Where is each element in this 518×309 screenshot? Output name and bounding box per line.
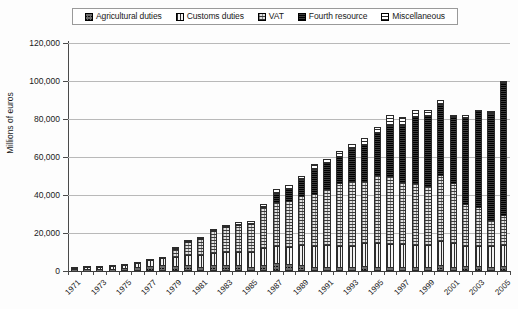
- bar-1994[interactable]: [361, 138, 368, 271]
- bar-1988[interactable]: [285, 185, 292, 271]
- bar-1990[interactable]: [311, 164, 318, 271]
- segment-fourth-resource: [387, 126, 392, 177]
- bar-1999[interactable]: [424, 110, 431, 272]
- bar-2002[interactable]: [462, 115, 469, 271]
- segment-agricultural-duties: [223, 266, 228, 270]
- segment-agricultural-duties: [135, 268, 140, 270]
- x-axis-tick: [396, 271, 397, 275]
- segment-customs-duties: [223, 253, 228, 266]
- swatch-vat-icon: [258, 13, 266, 21]
- legend-item-fourth-resource[interactable]: Fourth resource: [298, 12, 368, 21]
- x-axis-tick: [182, 271, 183, 275]
- swatch-agricultural-duties-icon: [85, 13, 93, 21]
- segment-fourth-resource: [451, 118, 456, 183]
- segment-fourth-resource: [312, 170, 317, 195]
- legend-item-agricultural-duties[interactable]: Agricultural duties: [85, 12, 162, 21]
- bar-1995[interactable]: [374, 127, 381, 271]
- segment-customs-duties: [362, 244, 367, 266]
- x-axis-tick: [485, 271, 486, 275]
- segment-vat: [387, 177, 392, 245]
- segment-fourth-resource: [476, 112, 481, 207]
- segment-fourth-resource: [286, 190, 291, 202]
- bar-1979[interactable]: [172, 247, 179, 271]
- segment-vat: [198, 240, 203, 256]
- legend-item-customs-duties[interactable]: Customs duties: [176, 12, 244, 21]
- segment-miscellaneous: [387, 116, 392, 126]
- stacked-bar-chart: Agricultural dutiesCustoms dutiesVATFour…: [0, 0, 518, 309]
- x-axis-tick: [119, 271, 120, 275]
- x-axis-tick: [321, 271, 322, 275]
- segment-miscellaneous: [400, 118, 405, 126]
- x-axis-tick: [144, 271, 145, 275]
- segment-agricultural-duties: [375, 268, 380, 270]
- x-axis-tick: [131, 271, 132, 275]
- bar-1981[interactable]: [197, 237, 204, 271]
- x-axis-tick: [510, 271, 511, 275]
- segment-agricultural-duties: [362, 267, 367, 270]
- segment-customs-duties: [476, 247, 481, 267]
- x-axis-tick-label: 1993: [333, 278, 361, 306]
- segment-customs-duties: [425, 246, 430, 268]
- legend-item-label: VAT: [269, 12, 284, 21]
- bar-2000[interactable]: [437, 100, 444, 271]
- bar-1987[interactable]: [273, 189, 280, 271]
- bar-1975[interactable]: [121, 264, 128, 271]
- bar-1985[interactable]: [247, 221, 254, 271]
- segment-vat: [286, 202, 291, 248]
- segment-agricultural-duties: [211, 266, 216, 270]
- x-axis-tick-label: 1979: [156, 278, 184, 306]
- segment-miscellaneous: [413, 111, 418, 119]
- bar-1996[interactable]: [386, 115, 393, 271]
- x-axis-tick: [270, 271, 271, 275]
- x-axis-tick: [497, 271, 498, 275]
- segment-vat: [476, 208, 481, 248]
- segment-vat: [274, 203, 279, 247]
- x-axis-tick: [68, 271, 69, 275]
- bar-2005[interactable]: [500, 81, 507, 271]
- legend-item-miscellaneous[interactable]: Miscellaneous: [381, 12, 445, 21]
- bar-1980[interactable]: [184, 240, 191, 271]
- segment-agricultural-duties: [236, 266, 241, 270]
- segment-customs-duties: [349, 247, 354, 268]
- segment-customs-duties: [286, 248, 291, 265]
- x-axis-tick: [106, 271, 107, 275]
- bar-1997[interactable]: [399, 117, 406, 271]
- x-axis-tick-label: 1989: [282, 278, 310, 306]
- segment-vat: [349, 182, 354, 247]
- x-axis-tick: [207, 271, 208, 275]
- bar-1989[interactable]: [298, 176, 305, 271]
- y-axis-tick-label: 0: [0, 266, 60, 276]
- bar-1982[interactable]: [210, 229, 217, 271]
- bar-1992[interactable]: [336, 151, 343, 271]
- bar-1984[interactable]: [235, 222, 242, 271]
- segment-vat: [438, 176, 443, 242]
- bar-1976[interactable]: [134, 262, 141, 271]
- bar-1998[interactable]: [412, 110, 419, 272]
- bar-1977[interactable]: [146, 259, 153, 271]
- x-axis-tick: [232, 271, 233, 275]
- legend-item-vat[interactable]: VAT: [258, 12, 284, 21]
- segment-customs-duties: [312, 247, 317, 268]
- segment-customs-duties: [185, 256, 190, 266]
- bar-1991[interactable]: [323, 159, 330, 271]
- bar-1983[interactable]: [222, 225, 229, 271]
- bar-2003[interactable]: [475, 110, 482, 271]
- x-axis-tick: [346, 271, 347, 275]
- y-axis-title: Millions of euros: [5, 58, 15, 188]
- x-axis-tick-label: 1977: [131, 278, 159, 306]
- segment-fourth-resource: [299, 180, 304, 197]
- bar-1978[interactable]: [159, 257, 166, 271]
- segment-agricultural-duties: [488, 268, 493, 270]
- x-axis-tick: [257, 271, 258, 275]
- x-axis-tick: [194, 271, 195, 275]
- x-axis-tick-label: 1973: [80, 278, 108, 306]
- segment-vat: [236, 226, 241, 253]
- bar-1986[interactable]: [260, 204, 267, 271]
- bar-2004[interactable]: [487, 111, 494, 271]
- segment-vat: [211, 232, 216, 254]
- x-axis-tick-label: 2005: [484, 278, 512, 306]
- x-axis-tick: [358, 271, 359, 275]
- segment-vat: [375, 176, 380, 244]
- bar-1993[interactable]: [348, 144, 355, 271]
- bar-2001[interactable]: [450, 115, 457, 271]
